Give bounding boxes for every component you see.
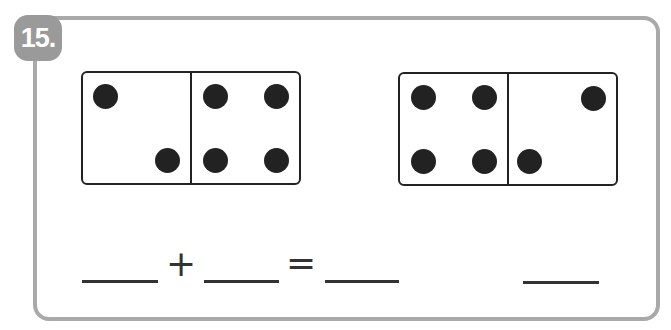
domino-2-right-half [507, 74, 616, 184]
pip [517, 149, 542, 174]
domino-2-left-half [400, 74, 507, 184]
pip [472, 85, 497, 110]
pip [264, 84, 289, 109]
domino-1 [81, 71, 301, 185]
answer-blank-addend-1[interactable] [82, 280, 158, 283]
pip [472, 149, 497, 174]
domino-1-right-half [190, 73, 299, 183]
pip [155, 148, 180, 173]
pip [203, 148, 228, 173]
pip [581, 86, 606, 111]
answer-blank-addend-2[interactable] [204, 280, 279, 283]
domino-2 [398, 72, 618, 186]
pip [411, 149, 436, 174]
pip [203, 84, 228, 109]
problem-number-badge: 15. [14, 15, 62, 61]
answer-blank-extra[interactable] [523, 281, 599, 284]
pip [264, 148, 289, 173]
domino-1-left-half [83, 73, 190, 183]
plus-sign: + [166, 246, 196, 282]
pip [411, 85, 436, 110]
equals-sign: = [286, 245, 316, 281]
pip [93, 84, 118, 109]
answer-blank-sum[interactable] [325, 280, 399, 283]
